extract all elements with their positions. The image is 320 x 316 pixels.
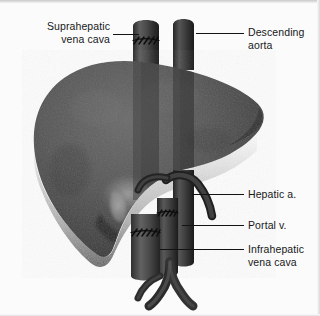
leader-infrahepatic-vena-cava	[160, 249, 244, 250]
leader-descending-aorta	[196, 33, 244, 34]
infrahepatic-cava-cuff	[131, 214, 160, 281]
label-suprahepatic-vena-cava: Suprahepatic vena cava	[14, 20, 110, 45]
label-portal-vein: Portal v.	[248, 219, 318, 232]
leader-portal-vein	[182, 225, 244, 226]
aortic-conduit-top	[173, 19, 194, 70]
label-hepatic-artery: Hepatic a.	[248, 188, 318, 201]
label-descending-aorta: Descending aorta	[248, 26, 318, 51]
leader-suprahepatic-vena-cava	[113, 34, 139, 35]
label-infrahepatic-vena-cava: Infrahepatic vena cava	[248, 243, 320, 268]
anatomical-figure: Suprahepatic vena cava Descending aorta …	[0, 0, 320, 316]
leader-hepatic-artery	[192, 194, 244, 195]
